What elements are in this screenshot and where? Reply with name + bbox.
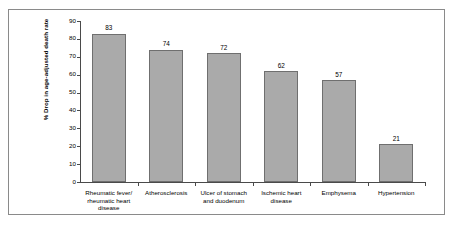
bar[interactable] [322, 80, 356, 182]
x-tick-mark [425, 182, 426, 186]
bar-value-label: 57 [319, 71, 359, 78]
y-tick-label: 40 [69, 106, 76, 113]
y-tick-label: 20 [69, 142, 76, 149]
bar[interactable] [207, 53, 241, 182]
y-tick-label: 30 [69, 124, 76, 131]
y-tick-mark [77, 39, 80, 40]
y-tick-label: 0 [73, 178, 76, 185]
y-axis-line [80, 21, 81, 182]
y-axis-title: % Drop in age-adjusted death rate [42, 0, 49, 153]
x-tick-mark [253, 182, 254, 186]
x-category-label-line: Ulcer of stomach [195, 189, 253, 197]
bar-value-label: 62 [261, 62, 301, 69]
y-tick-label: 50 [69, 88, 76, 95]
x-category-label-line: Rheumatic fever/ [80, 189, 138, 197]
x-tick-mark [310, 182, 311, 186]
x-tick-mark [138, 182, 139, 186]
y-tick-mark [77, 93, 80, 94]
figure-canvas: % Drop in age-adjusted death rate 010203… [0, 0, 454, 227]
bar[interactable] [149, 50, 183, 182]
x-tick-mark [195, 182, 196, 186]
y-tick-mark [77, 75, 80, 76]
x-category-label-line: Atherosclerosis [138, 189, 196, 197]
y-tick-label: 70 [69, 52, 76, 59]
x-category-label-line: disease [253, 197, 311, 205]
y-tick-mark [77, 21, 80, 22]
y-tick-label: 80 [69, 34, 76, 41]
y-tick-mark [77, 57, 80, 58]
x-category-label: Hypertension [368, 189, 426, 197]
x-category-label-line: Hypertension [368, 189, 426, 197]
bar[interactable] [379, 144, 413, 182]
x-tick-mark [368, 182, 369, 186]
y-tick-mark [77, 128, 80, 129]
x-category-label: Atherosclerosis [138, 189, 196, 197]
y-tick-label: 90 [69, 17, 76, 24]
y-tick-mark [77, 110, 80, 111]
x-category-label: Rheumatic fever/rheumatic heartdisease [80, 189, 138, 212]
x-category-label-line: Emphysema [310, 189, 368, 197]
bar-value-label: 21 [376, 135, 416, 142]
y-tick-label: 60 [69, 70, 76, 77]
x-category-label-line: Ischemic heart [253, 189, 311, 197]
bar-value-label: 72 [204, 44, 244, 51]
bar[interactable] [92, 34, 126, 182]
x-category-label: Ulcer of stomachand duodenum [195, 189, 253, 204]
y-tick-mark [77, 164, 80, 165]
x-category-label-line: disease [80, 204, 138, 212]
x-category-label: Emphysema [310, 189, 368, 197]
y-tick-mark [77, 146, 80, 147]
bar[interactable] [264, 71, 298, 182]
y-tick-mark [77, 182, 80, 183]
x-category-label-line: rheumatic heart [80, 197, 138, 205]
plot-area: 0102030405060708090 837472625721 [80, 21, 425, 182]
x-category-label-line: and duodenum [195, 197, 253, 205]
bar-value-label: 74 [146, 40, 186, 47]
y-tick-label: 10 [69, 160, 76, 167]
x-category-label: Ischemic heartdisease [253, 189, 311, 204]
bar-value-label: 83 [89, 24, 129, 31]
